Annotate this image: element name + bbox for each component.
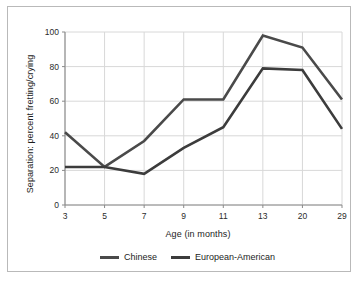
vertical-gridlines <box>65 32 342 205</box>
x-tick-label: 7 <box>142 211 147 221</box>
y-tick-label: 40 <box>50 131 60 141</box>
x-tick-label: 29 <box>337 211 347 221</box>
y-tick-label: 60 <box>50 96 60 106</box>
legend-item-european-american[interactable]: European-American <box>171 252 275 262</box>
x-tick-label: 20 <box>298 211 308 221</box>
y-tick-label: 0 <box>54 200 59 210</box>
y-tick-label: 20 <box>50 165 60 175</box>
chart-figure: 020406080100 357911132029 Separation: pe… <box>0 0 359 281</box>
axis-lines <box>65 32 342 205</box>
y-axis-title: Separation: percent fretting/crying <box>25 44 35 204</box>
x-axis-title: Age (in months) <box>68 229 328 239</box>
x-tick-label: 3 <box>63 211 68 221</box>
x-tick-label: 5 <box>102 211 107 221</box>
series-line-european-american <box>65 68 342 174</box>
chart-legend: Chinese European-American <box>8 252 359 262</box>
y-tick-label: 80 <box>50 62 60 72</box>
legend-item-chinese[interactable]: Chinese <box>100 252 157 262</box>
legend-label-european-american: European-American <box>195 252 275 262</box>
x-tick-label: 13 <box>258 211 268 221</box>
x-tick-label: 9 <box>181 211 186 221</box>
y-axis-tick-labels: 020406080100 <box>45 27 65 210</box>
x-axis-tick-labels: 357911132029 <box>63 205 347 221</box>
y-tick-label: 100 <box>45 27 59 37</box>
series-polylines <box>65 35 342 173</box>
chart-frame: 020406080100 357911132029 Separation: pe… <box>7 6 351 272</box>
legend-label-chinese: Chinese <box>124 252 157 262</box>
legend-swatch-chinese <box>100 256 119 259</box>
legend-swatch-european-american <box>171 256 190 259</box>
horizontal-gridlines <box>65 32 342 205</box>
x-tick-label: 11 <box>219 211 228 221</box>
